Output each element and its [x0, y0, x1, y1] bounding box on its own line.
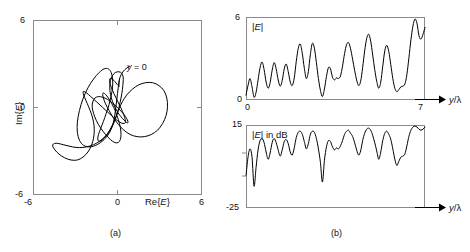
- panel-a: y = 0 6 0 -6 -6 0 6 Im{E} Re{E} (a): [0, 0, 235, 252]
- panel-b-bottom-inplot-label: |E| in dB: [252, 130, 288, 140]
- panel-b-top-magnitude-plot: [246, 17, 425, 100]
- panel-b-bottom-ytick-min: -25: [226, 203, 239, 212]
- annotation-rest: = 0: [132, 62, 147, 72]
- panel-b-top-xtick-min: 0: [245, 103, 250, 112]
- panel-b-top-inplot-label: |E|: [252, 22, 263, 32]
- panel-b: |E| 6 0 0 7 y/λ |E| in dB 15 -25 y/λ: [235, 0, 470, 252]
- panel-b-bottom-tickmarks: [238, 123, 252, 213]
- panel-b-caption: (b): [331, 228, 342, 238]
- panel-a-x-axis-title: Re{E}: [145, 197, 170, 207]
- panel-a-ytick-bottom: -6: [15, 190, 23, 199]
- panel-a-ytick-top: 6: [20, 16, 25, 25]
- panel-b-top-ytick-max: 6: [235, 13, 240, 22]
- panel-a-xtick-mid: 0: [115, 198, 120, 207]
- panel-a-tickmarks: [28, 18, 208, 208]
- panel-b-top-x-axis-title: y/λ: [449, 95, 461, 105]
- panel-a-xtick-right: 6: [199, 198, 204, 207]
- panel-b-bottom-ytick-max: 15: [232, 120, 242, 129]
- figure-container: y = 0 6 0 -6 -6 0 6 Im{E} Re{E} (a) |E| …: [0, 0, 470, 252]
- panel-a-y-axis-title: Im{E}: [14, 102, 24, 125]
- panel-b-bottom-x-axis-title: y/λ: [449, 203, 461, 213]
- y-equals-zero-annotation: y = 0: [127, 63, 147, 72]
- panel-b-top-ytick-min: 0: [237, 95, 242, 104]
- panel-a-caption: (a): [110, 228, 121, 238]
- magnitude-linear-curve: [246, 19, 425, 97]
- panel-a-xtick-left: -6: [24, 198, 32, 207]
